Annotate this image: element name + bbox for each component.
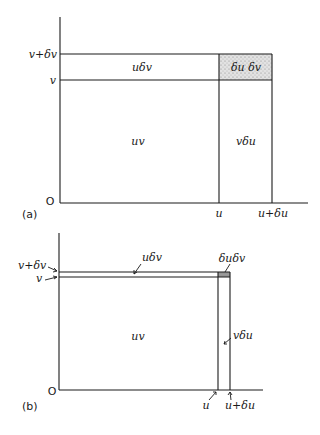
region-main-label-a: uv xyxy=(131,135,145,148)
region-top-strip-label-b: uδv xyxy=(142,251,163,264)
x-label-u-a: u xyxy=(215,207,222,220)
figure-b: v+δv v uδv δuδv uv vδu O (b) u u+δu xyxy=(18,233,263,413)
corner-region-b xyxy=(218,272,230,277)
y-label-v-plus-dv-a: v+δv xyxy=(29,48,58,61)
arrow-u-b xyxy=(209,392,216,400)
product-rule-diagram: v+δv v uδv δu δv uv vδu O (a) u u+δu xyxy=(0,0,320,435)
panel-label-a: (a) xyxy=(22,208,37,221)
region-corner-label-b: δuδv xyxy=(219,252,246,265)
x-label-u-plus-du-a: u+δu xyxy=(258,207,288,220)
origin-label-b: O xyxy=(48,385,57,398)
figure-a: v+δv v uδv δu δv uv vδu O (a) u u+δu xyxy=(22,17,308,221)
y-label-v-a: v xyxy=(50,74,57,87)
y-label-v-b: v xyxy=(36,272,43,285)
region-corner-label-a: δu δv xyxy=(231,61,262,74)
origin-label-a: O xyxy=(46,195,55,208)
panel-label-b: (b) xyxy=(22,400,38,413)
y-label-v-plus-dv-b: v+δv xyxy=(18,259,47,272)
region-main-label-b: uv xyxy=(131,330,145,343)
x-label-u-b: u xyxy=(202,399,209,412)
arrow-v-b xyxy=(45,276,57,280)
arrow-v-plus-dv-b xyxy=(48,267,57,272)
region-right-strip-label-b: vδu xyxy=(233,329,253,342)
arrow-corner-b xyxy=(225,264,230,272)
x-label-u-plus-du-b: u+δu xyxy=(225,399,255,412)
region-top-strip-label-a: uδv xyxy=(132,61,153,74)
region-right-strip-label-a: vδu xyxy=(236,135,256,148)
